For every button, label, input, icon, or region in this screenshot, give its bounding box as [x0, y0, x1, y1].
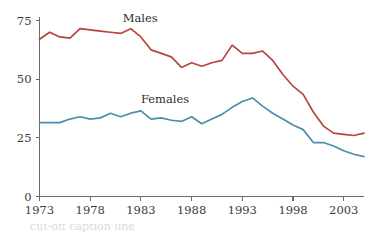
x-axis-tick-label: 1988: [177, 203, 206, 217]
x-axis-tick-label: 1983: [126, 203, 155, 217]
x-axis-tick-label: 2003: [329, 203, 358, 217]
y-axis-tick-label: 25: [17, 131, 32, 145]
series-lines: [40, 29, 365, 157]
chart-container: 0255075 1973197819831988199319982003 Mal…: [0, 0, 369, 233]
y-axis: 0255075: [17, 14, 40, 204]
y-axis-tick-label: 75: [17, 14, 32, 28]
cut-off-caption: cut-off caption line: [0, 224, 369, 233]
series-line-males: [40, 29, 365, 136]
series-line-females: [40, 98, 365, 157]
series-labels: MalesFemales: [123, 11, 190, 106]
y-axis-tick-label: 50: [17, 72, 32, 86]
series-label-males: Males: [123, 11, 158, 25]
series-label-females: Females: [141, 92, 189, 106]
y-axis-tick-label: 0: [24, 190, 31, 204]
x-axis-tick-label: 1973: [25, 203, 54, 217]
x-axis-tick-label: 1993: [228, 203, 257, 217]
x-axis-tick-label: 1978: [76, 203, 105, 217]
line-chart: 0255075 1973197819831988199319982003 Mal…: [0, 0, 369, 233]
x-axis-tick-label: 1998: [278, 203, 307, 217]
x-axis: 1973197819831988199319982003: [25, 197, 364, 217]
caption-text: cut-off caption line: [30, 224, 135, 233]
